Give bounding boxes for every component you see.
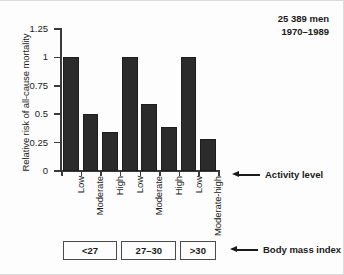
bar (122, 57, 138, 171)
bmi-group-box: 27–30 (121, 241, 176, 260)
x-axis-category-label: Moderate (94, 176, 105, 215)
activity-level-callout-label: Activity level (265, 169, 323, 180)
y-axis-tick (54, 85, 61, 87)
y-axis-tick (54, 142, 61, 144)
y-axis-tick-label: 0.75 (8, 81, 48, 91)
y-axis-tick (54, 28, 61, 30)
bar (102, 132, 118, 171)
y-axis-tick (54, 113, 61, 115)
x-axis-category-label: High (173, 176, 184, 195)
y-axis-tick-label: 0.5 (8, 109, 48, 119)
x-axis-category-label: High (114, 176, 125, 195)
y-axis-title: Relative risk of all-cause mortality (20, 18, 31, 188)
x-axis-tick (61, 172, 63, 176)
y-axis-tick (54, 170, 61, 172)
x-axis-category-label: Moderate-high (212, 176, 223, 236)
x-axis-category-label: Moderate (153, 176, 164, 215)
figure-canvas: Relative risk of all-cause mortality 00.… (0, 0, 344, 275)
cohort-annotation: 25 389 men 1970–1989 (278, 13, 329, 38)
body-mass-index-callout: Body mass index (230, 244, 341, 255)
bar (161, 127, 177, 171)
left-arrow-icon (230, 245, 258, 254)
bmi-group-box: <27 (63, 241, 118, 260)
x-axis-category-label: Low (193, 176, 204, 193)
x-axis-category-label: Low (134, 176, 145, 193)
x-axis-category-label: Low (75, 176, 86, 193)
cohort-annotation-line2: 1970–1989 (278, 26, 329, 39)
bar-series (61, 29, 218, 171)
y-axis-tick-label: 0.25 (8, 138, 48, 148)
cohort-annotation-line1: 25 389 men (278, 13, 329, 26)
bar (141, 104, 157, 171)
activity-level-callout: Activity level (232, 169, 323, 180)
y-axis-tick-label: 1.25 (8, 24, 48, 34)
bar (181, 57, 197, 171)
y-axis-tick (54, 57, 61, 59)
bar (200, 139, 216, 171)
bar (63, 57, 79, 171)
y-axis-tick-label: 1 (8, 52, 48, 62)
body-mass-index-callout-label: Body mass index (263, 244, 341, 255)
left-arrow-icon (232, 170, 260, 179)
y-axis-tick-label: 0 (8, 166, 48, 176)
bmi-group-brackets: <2727–30>30 (61, 241, 218, 261)
bmi-group-box: >30 (180, 241, 215, 260)
bar (83, 114, 99, 171)
